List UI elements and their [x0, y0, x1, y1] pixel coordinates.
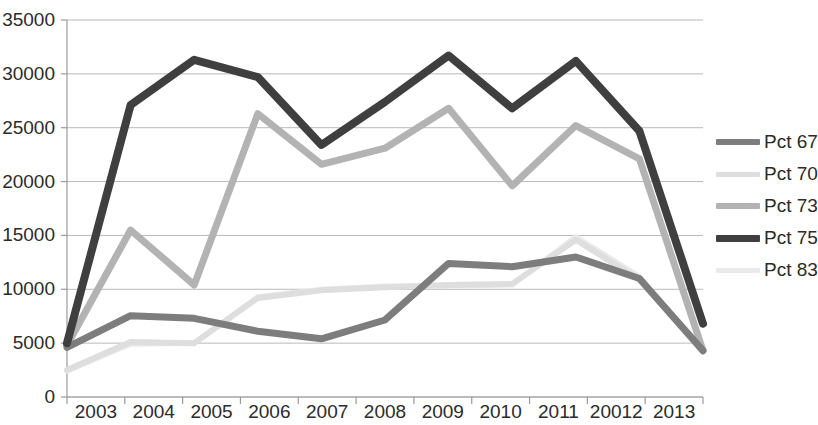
y-tick-label: 5000 [0, 332, 55, 354]
legend-label: Pct 70 [764, 163, 818, 185]
x-tick-label: 2004 [133, 401, 175, 423]
y-tick-label: 20000 [0, 171, 55, 193]
series-line-pct-75 [67, 56, 703, 344]
legend-item[interactable]: Pct 73 [716, 190, 816, 222]
legend-item[interactable]: Pct 70 [716, 158, 816, 190]
legend-item[interactable]: Pct 83 [716, 254, 816, 286]
y-tick-label: 25000 [0, 117, 55, 139]
legend-label: Pct 67 [764, 131, 818, 153]
chart-legend: Pct 67Pct 70Pct 73Pct 75Pct 83 [716, 126, 816, 286]
x-tick-label: 2013 [653, 401, 695, 423]
x-tick-label: 2009 [422, 401, 464, 423]
y-tick-label: 10000 [0, 278, 55, 300]
y-tick-label: 0 [0, 386, 55, 408]
legend-item[interactable]: Pct 67 [716, 126, 816, 158]
legend-label: Pct 73 [764, 195, 818, 217]
legend-swatch-icon [716, 139, 760, 145]
x-tick-label: 2003 [75, 401, 117, 423]
x-tick-label: 2010 [479, 401, 521, 423]
x-tick-label: 2006 [248, 401, 290, 423]
legend-label: Pct 83 [764, 259, 818, 281]
series-line-pct-67 [67, 257, 703, 351]
legend-swatch-icon [716, 268, 760, 273]
x-tick-label: 2007 [306, 401, 348, 423]
x-tick-label: 2005 [190, 401, 232, 423]
x-tick-label: 2011 [538, 401, 579, 423]
x-tick-label: 20012 [590, 401, 643, 423]
legend-swatch-icon [716, 172, 760, 177]
y-tick-label: 35000 [0, 9, 55, 31]
legend-swatch-icon [716, 235, 760, 242]
x-tick-label: 2008 [364, 401, 406, 423]
y-tick-label: 30000 [0, 63, 55, 85]
legend-label: Pct 75 [764, 227, 818, 249]
legend-swatch-icon [716, 203, 760, 209]
legend-item[interactable]: Pct 75 [716, 222, 816, 254]
y-tick-label: 15000 [0, 224, 55, 246]
